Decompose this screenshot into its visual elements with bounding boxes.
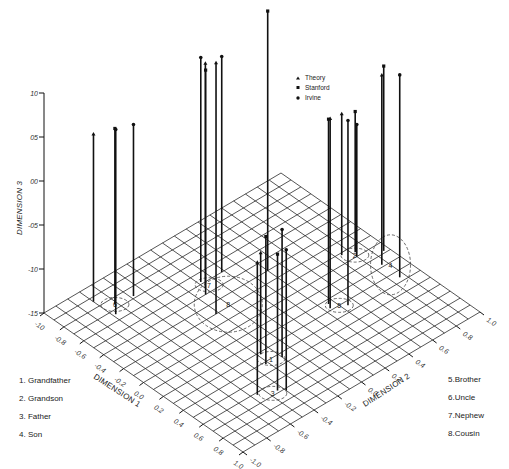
dim2-tick — [385, 368, 389, 371]
kin-term-key-right: 5.Brother 6.Uncle 7.Nephew 8.Cousin — [448, 375, 484, 438]
circle-marker-icon — [296, 96, 299, 99]
dim2-tick — [409, 354, 413, 357]
dim2-tick — [456, 326, 460, 329]
stanford-marker — [354, 110, 357, 113]
kin-term-7: 7.Nephew — [448, 411, 484, 420]
irvine-marker — [132, 123, 136, 127]
dim1-tick-label: 0.2 — [153, 403, 165, 414]
dim2-tick-label: 1.0 — [485, 316, 497, 327]
cluster-label: 5 — [337, 302, 341, 309]
square-marker-icon — [297, 86, 300, 89]
cluster-label: 4 — [389, 262, 393, 269]
theory-marker — [91, 132, 95, 136]
stanford-marker — [327, 118, 330, 121]
kin-term-key-left: 1. Grandfather 2. Grandson 3. Father 4. … — [19, 376, 71, 439]
dim1-tick-label: -0.6 — [73, 348, 87, 360]
z-axis: -15-10-05000510 — [28, 90, 44, 317]
dim2-tick — [362, 382, 366, 385]
dimension-1-ticks: -10-0.8-0.6-0.4-0.20.00.20.40.60.81.0 — [33, 313, 244, 469]
stick-plot-3d: -15-10-05000510 -10-0.8-0.6-0.4-0.20.00.… — [0, 0, 509, 469]
legend-label: Stanford — [305, 84, 330, 91]
kin-term-6: 6.Uncle — [448, 393, 476, 402]
floor-grid — [44, 173, 480, 452]
z-tick-label: -15 — [28, 310, 38, 317]
kin-term-3: 3. Father — [19, 412, 51, 421]
stanford-marker — [382, 64, 385, 67]
dim2-tick-label: -0.8 — [272, 442, 286, 454]
dim2-tick-label: -0.6 — [296, 428, 310, 440]
z-tick-label: 00 — [30, 178, 38, 185]
dim1-tick — [239, 452, 243, 455]
legend-item-theory: Theory — [296, 74, 326, 82]
dim1-tick-label: -0.4 — [93, 362, 107, 374]
dim1-tick — [199, 424, 203, 427]
legend-label: Irvine — [305, 94, 321, 101]
kin-term-2: 2. Grandson — [19, 394, 63, 403]
dim2-tick — [243, 452, 247, 455]
theory-marker — [340, 112, 344, 116]
theory-marker — [214, 61, 218, 64]
dim2-tick — [314, 410, 318, 413]
kin-term-8: 8.Cousin — [448, 429, 480, 438]
dim2-tick-label: 0.8 — [462, 330, 474, 341]
cluster-label: 7 — [207, 282, 211, 289]
dim1-tick-label: 1.0 — [232, 459, 244, 469]
irvine-marker — [280, 228, 284, 232]
irvine-marker — [114, 128, 118, 132]
legend-item-stanford: Stanford — [297, 84, 330, 91]
cluster-label: 3 — [271, 390, 275, 397]
irvine-marker — [199, 56, 203, 60]
dim1-tick — [140, 383, 144, 386]
irvine-marker — [355, 123, 359, 127]
dim1-tick-label: 0.4 — [173, 417, 185, 428]
kin-term-4: 4. Son — [19, 430, 42, 439]
legend-label: Theory — [305, 74, 326, 82]
dim2-tick-label: -0.2 — [343, 400, 357, 412]
triangle-marker-icon — [296, 77, 300, 80]
dim2-tick-label: 0.4 — [414, 358, 426, 369]
irvine-marker — [220, 55, 224, 59]
stanford-marker — [204, 69, 207, 72]
dim1-tick — [120, 369, 124, 372]
cluster-label: 8 — [226, 301, 230, 308]
dim2-tick — [267, 438, 271, 441]
z-tick-label: 05 — [30, 134, 38, 141]
cluster-ellipses: 12345678 — [101, 235, 411, 401]
kin-term-5: 5.Brother — [448, 375, 481, 384]
dim2-tick-label: -0.4 — [320, 414, 334, 426]
dim1-tick — [179, 410, 183, 413]
stanford-marker — [266, 9, 269, 12]
kin-term-1: 1. Grandfather — [19, 376, 71, 385]
irvine-marker — [346, 119, 350, 123]
cluster-label: 1 — [269, 356, 273, 363]
grid-line-dim2 — [269, 180, 468, 319]
dimension-2-ticks: -1.0-0.8-0.6-0.4-0.20.00.20.40.60.81.0 — [243, 312, 498, 468]
dim2-tick — [290, 424, 294, 427]
dim1-tick — [80, 341, 84, 344]
grid-line-dim1 — [233, 305, 470, 445]
dimension-3-label: DIMENSION 3 — [15, 180, 24, 235]
stanford-marker — [264, 235, 267, 238]
dim1-tick — [219, 438, 223, 441]
dim1-tick — [159, 396, 163, 399]
legend: Theory Stanford Irvine — [296, 74, 330, 101]
data-sticks — [91, 9, 401, 394]
irvine-marker — [284, 248, 288, 252]
dim1-tick-label: 0.8 — [213, 445, 225, 456]
dim2-tick-label: -1.0 — [248, 456, 262, 468]
dim2-tick — [433, 340, 437, 343]
z-tick-label: -05 — [28, 222, 38, 229]
irvine-marker — [398, 73, 402, 77]
stanford-marker — [276, 253, 279, 256]
dim1-tick-label: -10 — [33, 320, 45, 331]
grid-line-dim1 — [223, 298, 460, 438]
dim1-tick-label: -0.8 — [53, 334, 67, 346]
dim1-tick-label: 0.6 — [193, 431, 205, 442]
dim1-tick — [60, 327, 64, 330]
z-tick-label: 10 — [30, 90, 38, 97]
legend-item-irvine: Irvine — [296, 94, 321, 101]
dim2-tick — [480, 312, 484, 315]
theory-marker — [203, 61, 207, 64]
z-tick-label: -10 — [28, 266, 38, 273]
dim2-tick — [338, 396, 342, 399]
